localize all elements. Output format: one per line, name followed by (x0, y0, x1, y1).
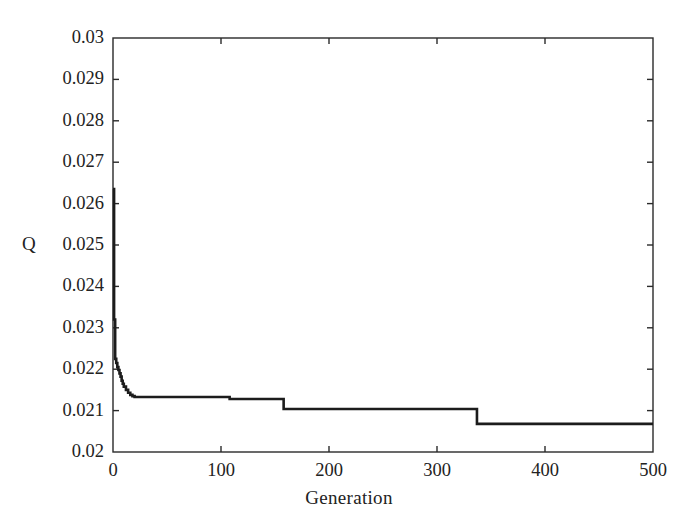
x-tick-label: 100 (181, 460, 261, 481)
y-tick-label: 0.021 (14, 400, 104, 421)
y-tick-label: 0.029 (14, 68, 104, 89)
x-tick-label: 200 (289, 460, 369, 481)
x-tick-label: 300 (397, 460, 477, 481)
tick-marks (113, 38, 653, 452)
plot-area (0, 0, 698, 530)
y-tick-label: 0.028 (14, 110, 104, 131)
y-tick-label: 0.024 (14, 275, 104, 296)
y-tick-label: 0.027 (14, 151, 104, 172)
x-tick-label: 500 (613, 460, 693, 481)
x-tick-label: 0 (73, 460, 153, 481)
data-series-line (113, 189, 653, 424)
x-axis-title: Generation (0, 487, 698, 509)
x-tick-label: 400 (505, 460, 585, 481)
y-tick-label: 0.026 (14, 193, 104, 214)
y-tick-label: 0.023 (14, 317, 104, 338)
plot-frame (113, 38, 653, 452)
y-tick-label: 0.022 (14, 358, 104, 379)
chart-figure: Q Generation 0.020.0210.0220.0230.0240.0… (0, 0, 698, 530)
y-tick-label: 0.03 (14, 27, 104, 48)
y-tick-label: 0.025 (14, 234, 104, 255)
y-tick-label: 0.02 (14, 441, 104, 462)
